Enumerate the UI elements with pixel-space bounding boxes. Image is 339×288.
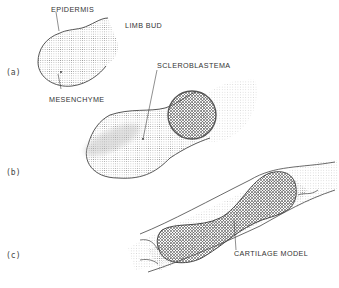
label-cartilage-model: CARTILAGE MODEL — [234, 249, 308, 258]
panel-label-c: (c) — [6, 251, 20, 260]
scleroblastema-condensation — [168, 91, 216, 139]
label-mesenchyme: MESENCHYME — [49, 95, 105, 104]
panel-b: SCLEROBLASTEMA (b) — [6, 61, 257, 178]
panel-label-b: (b) — [6, 168, 20, 177]
panel-a: EPIDERMIS LIMB BUD MESENCHYME (a) — [6, 5, 162, 104]
diagram-canvas: EPIDERMIS LIMB BUD MESENCHYME (a) SCLERO… — [0, 0, 339, 288]
label-scleroblastema: SCLEROBLASTEMA — [157, 61, 231, 70]
epidermis-leader — [56, 12, 59, 31]
panel-c: CARTILAGE MODEL (c) — [6, 160, 338, 272]
panel-label-a: (a) — [6, 68, 20, 77]
label-limb-bud: LIMB BUD — [125, 21, 162, 30]
label-epidermis: EPIDERMIS — [51, 5, 94, 14]
limb-bud-a — [38, 18, 118, 86]
